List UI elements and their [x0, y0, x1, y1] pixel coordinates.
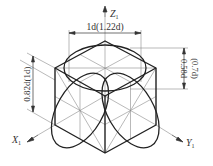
- right-height-dimension-alt: (0.7d): [190, 58, 200, 79]
- isometric-cube-diagram: Z1 X1 Y1 1d(1.22d) 0.82d(1d) 0.58d (0.7d…: [0, 0, 213, 166]
- left-height-dimension: 0.82d(1d): [22, 66, 32, 101]
- y-axis-label: Y1: [186, 137, 195, 149]
- z-axis-label: Z1: [110, 8, 119, 20]
- top-width-dimension: 1d(1.22d): [86, 22, 123, 33]
- z-axis-arrow-icon: [103, 6, 107, 12]
- x-axis-label: X1: [11, 134, 21, 146]
- construction-lines: [20, 17, 188, 153]
- right-height-dimension-main: 0.58d: [179, 59, 189, 79]
